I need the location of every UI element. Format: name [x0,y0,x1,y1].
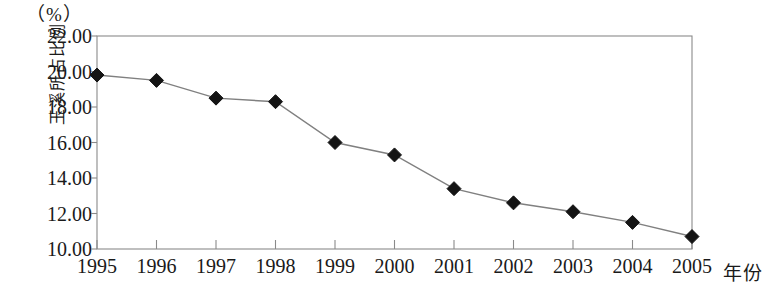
x-axis-ticks [97,240,692,249]
data-point [566,205,580,219]
data-point [626,215,640,229]
x-axis-tick-label: 2003 [553,256,593,276]
x-axis-tick-label: 2001 [434,256,474,276]
x-axis-tick-label: 2000 [375,256,415,276]
line-chart: （%） 玉溪所占比例 22.0020.0018.0016.0014.0012.0… [0,0,775,284]
x-axis-tick-label: 1995 [77,256,117,276]
x-axis-tick-label: 1997 [196,256,236,276]
data-point [269,95,283,109]
x-axis-tick-labels: 1995199619971998199920002001200220032004… [0,256,775,284]
x-axis-tick-label: 1996 [137,256,177,276]
x-axis-tick-label: 2002 [494,256,534,276]
x-axis-tick-label: 1998 [256,256,296,276]
y-axis-ticks [91,36,97,249]
x-axis-tick-label: 2005 [672,256,712,276]
plot-area [0,0,775,284]
data-point [328,136,342,150]
x-axis-title: 年份 [723,258,763,284]
data-point [150,73,164,87]
x-axis-tick-label: 2004 [613,256,653,276]
data-point [447,182,461,196]
data-point [209,91,223,105]
data-point [685,230,699,244]
x-axis-tick-label: 1999 [315,256,355,276]
data-point [388,148,402,162]
data-point [90,68,104,82]
data-point [507,196,521,210]
